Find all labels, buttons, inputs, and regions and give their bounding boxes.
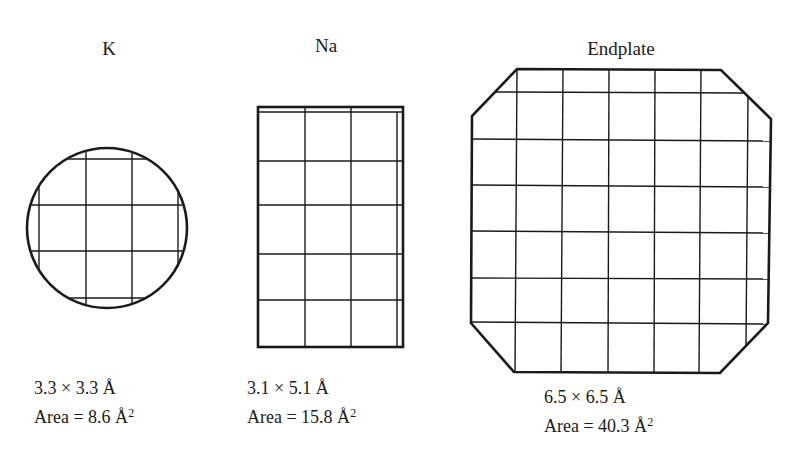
endplate-area: Area = 40.3 Å2 <box>544 410 653 439</box>
k-area: Area = 8.6 Å2 <box>34 401 134 430</box>
k-dimensions: 3.3 × 3.3 Å <box>34 376 134 401</box>
caption-na: 3.1 × 5.1 Å Area = 15.8 Å2 <box>247 376 356 430</box>
k-area-exponent: 2 <box>128 406 134 420</box>
endplate-dimensions: 6.5 × 6.5 Å <box>544 385 653 410</box>
na-pore-shape <box>258 107 403 347</box>
na-dimensions: 3.1 × 5.1 Å <box>247 376 356 401</box>
endplate-pore-shape <box>471 69 771 373</box>
k-area-label: Area = 8.6 Å <box>34 407 128 427</box>
na-area-exponent: 2 <box>350 406 356 420</box>
caption-endplate: 6.5 × 6.5 Å Area = 40.3 Å2 <box>544 385 653 439</box>
endplate-area-label: Area = 40.3 Å <box>544 416 647 436</box>
caption-k: 3.3 × 3.3 Å Area = 8.6 Å2 <box>34 376 134 430</box>
na-area-label: Area = 15.8 Å <box>247 407 350 427</box>
na-area: Area = 15.8 Å2 <box>247 401 356 430</box>
endplate-area-exponent: 2 <box>647 415 653 429</box>
k-pore-shape <box>20 140 200 320</box>
